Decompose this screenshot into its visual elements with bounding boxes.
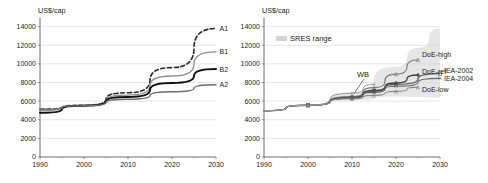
series-label-b1: B1 bbox=[220, 48, 229, 55]
svg-text:1990: 1990 bbox=[256, 161, 272, 168]
svg-text:2000: 2000 bbox=[300, 161, 316, 168]
svg-text:2000: 2000 bbox=[20, 135, 36, 142]
svg-text:8000: 8000 bbox=[244, 79, 260, 86]
wb-annotation: WB bbox=[355, 70, 369, 92]
projections-comparison-panel: US$/cap 02000400060008000100001200014000… bbox=[244, 0, 488, 183]
x-tick-labels-right: 19902000201020202030 bbox=[256, 161, 448, 168]
svg-text:0: 0 bbox=[256, 153, 260, 160]
svg-text:14000: 14000 bbox=[17, 23, 37, 30]
svg-text:8000: 8000 bbox=[20, 79, 36, 86]
sres-scenarios-panel: US$/cap 02000400060008000100001200014000… bbox=[0, 0, 244, 183]
svg-text:2020: 2020 bbox=[388, 161, 404, 168]
svg-text:2000: 2000 bbox=[76, 161, 92, 168]
series-label-iea-2002: IEA-2002 bbox=[444, 67, 473, 74]
series-label-doe-high: DoE-high bbox=[422, 51, 451, 59]
svg-text:12000: 12000 bbox=[17, 42, 37, 49]
svg-text:2030: 2030 bbox=[432, 161, 448, 168]
gridlines-left bbox=[40, 27, 216, 139]
svg-text:4000: 4000 bbox=[244, 116, 260, 123]
svg-text:2020: 2020 bbox=[164, 161, 180, 168]
sres-range-legend-label: SRES range bbox=[290, 34, 332, 43]
axis-lines-left bbox=[38, 18, 216, 159]
svg-text:14000: 14000 bbox=[241, 23, 261, 30]
svg-text:2010: 2010 bbox=[120, 161, 136, 168]
series-labels-right: DoE-highDoE-refIEA-2002IEA-2004DoE-low bbox=[422, 51, 473, 93]
svg-text:2000: 2000 bbox=[244, 135, 260, 142]
y-tick-labels-left: 02000400060008000100001200014000 bbox=[17, 23, 37, 160]
series-label-a2: A2 bbox=[220, 81, 229, 88]
sres-range-legend: SRES range bbox=[276, 34, 332, 43]
left-chart-canvas: 02000400060008000100001200014000 1990200… bbox=[0, 0, 244, 183]
svg-text:4000: 4000 bbox=[20, 116, 36, 123]
series-label-iea-2004: IEA-2004 bbox=[444, 75, 473, 82]
svg-text:12000: 12000 bbox=[241, 42, 261, 49]
svg-text:6000: 6000 bbox=[244, 98, 260, 105]
series-lines-left bbox=[40, 29, 216, 113]
right-chart-canvas: 02000400060008000100001200014000 1990200… bbox=[244, 0, 488, 183]
x-tick-labels-left: 19902000201020202030 bbox=[32, 161, 224, 168]
svg-text:6000: 6000 bbox=[20, 98, 36, 105]
series-label-a1: A1 bbox=[220, 25, 229, 32]
svg-text:2010: 2010 bbox=[344, 161, 360, 168]
series-label-b2: B2 bbox=[220, 66, 229, 73]
svg-text:10000: 10000 bbox=[17, 60, 37, 67]
svg-text:0: 0 bbox=[32, 153, 36, 160]
y-tick-labels-right: 02000400060008000100001200014000 bbox=[241, 23, 261, 160]
svg-text:1990: 1990 bbox=[32, 161, 48, 168]
series-label-doe-low: DoE-low bbox=[422, 86, 449, 93]
sres-range-swatch bbox=[276, 36, 287, 41]
series-label-doe-ref: DoE-ref bbox=[422, 68, 446, 75]
two-panel-figure: US$/cap 02000400060008000100001200014000… bbox=[0, 0, 488, 183]
svg-text:2030: 2030 bbox=[208, 161, 224, 168]
svg-text:10000: 10000 bbox=[241, 60, 261, 67]
wb-annotation-label: WB bbox=[357, 70, 369, 79]
series-labels-left: A1B1B2A2 bbox=[220, 25, 229, 88]
